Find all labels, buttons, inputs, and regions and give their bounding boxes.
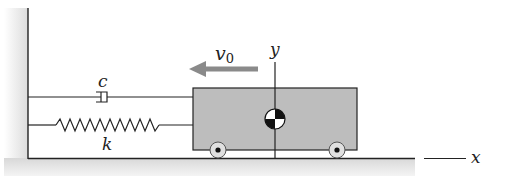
mass-spring-damper-diagram: c k v0 y x	[0, 0, 515, 176]
wheel-left	[210, 142, 226, 158]
velocity-label: v0	[215, 42, 234, 66]
damper	[28, 92, 193, 102]
velocity-subscript: 0	[226, 51, 234, 66]
spring	[28, 119, 193, 131]
floor-shading	[4, 158, 415, 176]
velocity-symbol: v	[215, 42, 226, 64]
spring-label: k	[102, 134, 112, 154]
wall-shading	[4, 8, 28, 176]
damper-label: c	[98, 71, 108, 91]
x-axis-label: x	[471, 147, 481, 167]
y-axis-label: y	[269, 39, 280, 59]
wheel-right	[329, 142, 345, 158]
center-of-mass-icon	[265, 109, 285, 129]
